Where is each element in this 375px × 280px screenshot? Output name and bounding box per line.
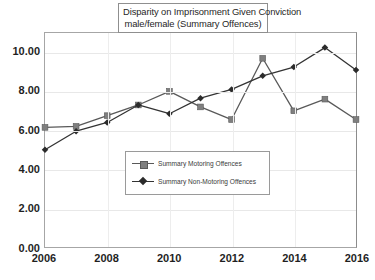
x-axis-tick-label: 2012: [209, 252, 255, 264]
data-point-diamond: [42, 146, 49, 153]
data-point-square: [260, 55, 266, 61]
data-point-square: [322, 96, 328, 102]
data-point-square: [198, 104, 204, 110]
x-axis-tick-label: 2006: [21, 252, 67, 264]
x-axis: 200620082010201220142016: [44, 252, 357, 272]
legend-item-summary-non-motoring-offences: Summary Non-Motoring Offences: [132, 175, 263, 188]
chart-title-line-1: Disparity on Imprisonment Given Convicti…: [123, 6, 263, 18]
data-point-square: [353, 117, 359, 123]
y-axis-tick-label: 6.00: [0, 125, 40, 136]
x-axis-tick-label: 2014: [271, 252, 317, 264]
data-point-diamond: [259, 73, 266, 80]
legend-diamond-marker-icon: [132, 176, 154, 187]
plot-area: [44, 32, 357, 248]
legend-label-0: Summary Motoring Offences: [158, 160, 242, 168]
data-point-diamond: [197, 95, 204, 102]
y-axis-tick-label: 2.00: [0, 203, 40, 214]
gridline-vertical: [170, 33, 171, 247]
gridline-horizontal: [45, 210, 356, 211]
gridline-horizontal: [45, 92, 356, 93]
x-axis-tick-label: 2016: [334, 252, 375, 264]
series-layer: [45, 33, 356, 247]
legend-label-1: Summary Non-Motoring Offences: [158, 178, 256, 186]
series-non-motoring: [42, 44, 360, 153]
gridline-horizontal: [45, 131, 356, 132]
y-axis-tick-label: 10.00: [0, 46, 40, 57]
data-point-square: [42, 124, 48, 130]
gridline-vertical: [233, 33, 234, 247]
x-axis-tick-label: 2008: [84, 252, 130, 264]
legend-square-marker-icon: [132, 158, 154, 169]
gridline-vertical: [295, 33, 296, 247]
chart-container: Disparity on Imprisonment Given Convicti…: [0, 0, 375, 280]
gridline-horizontal: [45, 53, 356, 54]
chart-title: Disparity on Imprisonment Given Convicti…: [118, 3, 268, 33]
chart-legend: Summary Motoring Offences Summary Non-Mo…: [125, 151, 270, 195]
y-axis: 0.002.004.006.008.0010.00: [0, 32, 40, 248]
x-axis-tick-label: 2010: [146, 252, 192, 264]
y-axis-tick-label: 8.00: [0, 85, 40, 96]
gridline-vertical: [108, 33, 109, 247]
legend-item-summary-motoring-offences: Summary Motoring Offences: [132, 157, 263, 170]
y-axis-tick-label: 4.00: [0, 164, 40, 175]
chart-title-line-2: male/female (Summary Offences): [123, 18, 263, 30]
